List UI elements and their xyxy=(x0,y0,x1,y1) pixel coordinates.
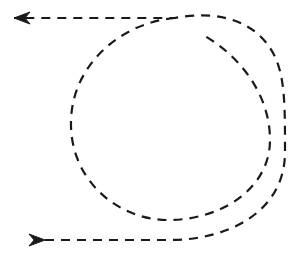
spiral-diagram-svg xyxy=(0,0,293,259)
diagram-canvas: Dashed spiral loop path with directional… xyxy=(0,0,293,259)
canvas-background xyxy=(0,0,293,259)
